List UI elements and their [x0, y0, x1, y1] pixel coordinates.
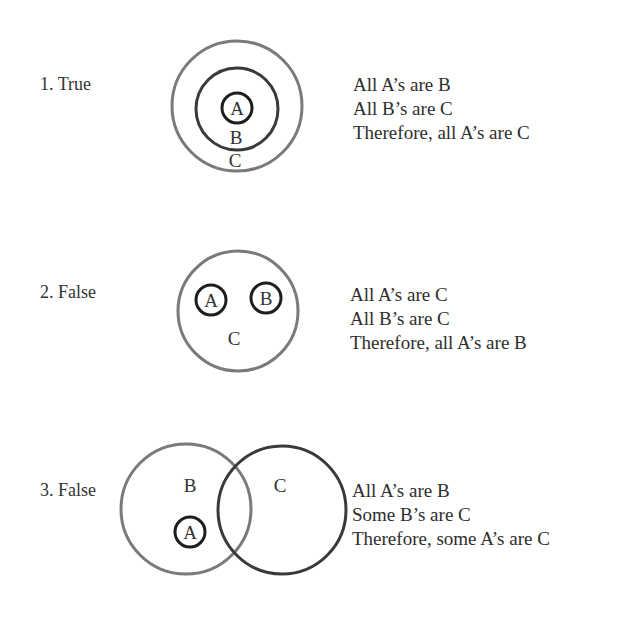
circle-a-label: A	[230, 98, 244, 119]
syllogism-3-statements: All A’s are B Some B’s are C Therefore, …	[352, 479, 550, 551]
syllogism-1-verdict: 1. True	[40, 73, 91, 95]
circle-c	[178, 251, 298, 371]
circle-a-label: A	[204, 290, 218, 311]
circle-b-label: B	[230, 127, 243, 148]
diagram-1: A B C	[172, 41, 302, 171]
premise-2: Some B’s are C	[352, 503, 550, 527]
conclusion: Therefore, all A’s are B	[350, 331, 527, 355]
syllogism-2-statements: All A’s are C All B’s are C Therefore, a…	[350, 283, 527, 355]
circle-b-label: B	[184, 475, 197, 496]
premise-2: All B’s are C	[353, 97, 530, 121]
circle-b	[121, 444, 251, 574]
syllogism-1-statements: All A’s are B All B’s are C Therefore, a…	[353, 73, 530, 145]
circle-c-label: C	[228, 328, 241, 349]
circle-a-label: A	[183, 522, 197, 543]
circle-c-label: C	[274, 475, 287, 496]
premise-2: All B’s are C	[350, 307, 527, 331]
circle-b-label: B	[260, 288, 273, 309]
circle-c-label: C	[229, 150, 242, 171]
syllogism-3-verdict: 3. False	[40, 479, 96, 501]
circle-c	[218, 446, 346, 574]
conclusion: Therefore, some A’s are C	[352, 527, 550, 551]
diagram-3: A B C	[121, 444, 346, 574]
premise-1: All A’s are B	[353, 73, 530, 97]
conclusion: Therefore, all A’s are C	[353, 121, 530, 145]
syllogism-2-verdict: 2. False	[40, 281, 96, 303]
premise-1: All A’s are B	[352, 479, 550, 503]
premise-1: All A’s are C	[350, 283, 527, 307]
diagram-2: A B C	[178, 251, 298, 371]
